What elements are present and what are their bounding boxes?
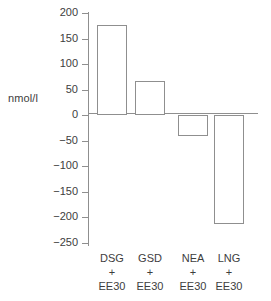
y-axis-tick-label: 0 xyxy=(32,109,78,120)
y-axis-tick xyxy=(82,64,88,65)
y-axis-tick-label: −250 xyxy=(32,237,78,248)
y-axis-tick-label: 200 xyxy=(32,7,78,18)
bar xyxy=(97,25,127,115)
bar xyxy=(178,115,208,136)
y-axis-tick xyxy=(82,192,88,193)
y-axis-line xyxy=(88,12,89,246)
y-axis-tick-label: −100 xyxy=(32,160,78,171)
category-plus-sign: + xyxy=(205,265,253,279)
y-axis-tick-label: 150 xyxy=(32,33,78,44)
y-axis-tick xyxy=(82,217,88,218)
y-axis-tick-label-text: 100 xyxy=(34,58,78,69)
y-axis-tick-label-text: 50 xyxy=(34,84,78,95)
y-axis-tick-label-text: 0 xyxy=(34,109,78,120)
y-axis-tick-label-text: 200 xyxy=(34,7,78,18)
category-estrogen-name: EE30 xyxy=(126,279,174,293)
y-axis-tick-label: −200 xyxy=(32,211,78,222)
category-drug-name: GSD xyxy=(126,251,174,265)
bar xyxy=(135,81,165,115)
y-axis-tick-label: 50 xyxy=(32,84,78,95)
y-axis-tick xyxy=(82,166,88,167)
y-axis-tick-label-text: −100 xyxy=(34,160,78,171)
y-axis-tick-label: −50 xyxy=(32,135,78,146)
y-axis-tick xyxy=(82,243,88,244)
y-axis-tick-label-text: −50 xyxy=(34,135,78,146)
y-axis-tick-label-text: −200 xyxy=(34,211,78,222)
bar-chart: nmol/l 200150100500−50−100−150−200−250 D… xyxy=(0,0,271,301)
y-axis-tick-label-text: −150 xyxy=(34,186,78,197)
y-axis-tick xyxy=(82,39,88,40)
bar xyxy=(214,115,244,224)
x-axis-category-label: LNG+EE30 xyxy=(205,251,253,293)
y-axis-tick-label: −150 xyxy=(32,186,78,197)
y-axis-tick-label: 100 xyxy=(32,58,78,69)
category-plus-sign: + xyxy=(126,265,174,279)
y-axis-tick xyxy=(82,13,88,14)
category-estrogen-name: EE30 xyxy=(205,279,253,293)
y-axis-tick xyxy=(82,141,88,142)
y-axis-tick-label-text: 150 xyxy=(34,33,78,44)
y-axis-tick xyxy=(82,90,88,91)
category-drug-name: LNG xyxy=(205,251,253,265)
y-axis-tick xyxy=(82,115,88,116)
x-axis-category-label: GSD+EE30 xyxy=(126,251,174,293)
y-axis-tick-label-text: −250 xyxy=(34,237,78,248)
